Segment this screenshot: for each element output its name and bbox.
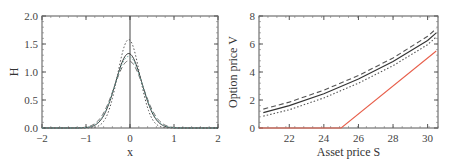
y-tick-label: 2.0: [24, 10, 38, 22]
x-tick-label: 26: [353, 132, 365, 144]
x-axis-label: x: [127, 145, 133, 159]
x-tick-label: 24: [318, 132, 330, 144]
figure: −2−10120.00.51.01.52.0xH 222426283002468…: [0, 0, 451, 164]
y-axis-label: Option price V: [226, 36, 240, 108]
y-axis-label: H: [7, 67, 21, 76]
y-tick-label: 0.0: [24, 122, 38, 134]
x-tick-label: 28: [388, 132, 400, 144]
x-tick-label: 30: [422, 132, 434, 144]
x-tick-label: 22: [284, 132, 295, 144]
y-tick-label: 6: [250, 38, 256, 50]
left-chart: −2−10120.00.51.01.52.0xH: [7, 10, 221, 159]
x-tick-label: 1: [171, 132, 177, 144]
curve-dotted: [263, 37, 436, 116]
y-tick-label: 2: [250, 94, 256, 106]
x-tick-label: 0: [127, 132, 133, 144]
curve-payoff: [259, 51, 436, 128]
y-tick-label: 0.5: [24, 94, 38, 106]
y-tick-label: 0: [250, 122, 256, 134]
x-tick-label: −1: [80, 132, 92, 144]
y-tick-label: 8: [250, 10, 256, 22]
y-tick-label: 1.5: [24, 38, 38, 50]
right-chart: 222426283002468Asset price SOption price…: [226, 10, 438, 159]
x-tick-label: 2: [215, 132, 221, 144]
curve-dashed: [263, 29, 436, 110]
x-axis-label: Asset price S: [317, 145, 380, 159]
y-tick-label: 4: [250, 66, 256, 78]
y-tick-label: 1.0: [24, 66, 38, 78]
